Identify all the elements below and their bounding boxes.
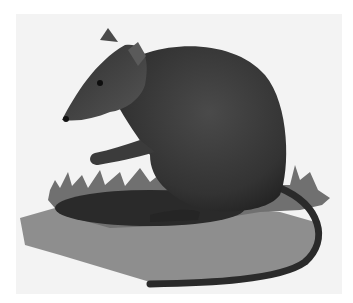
rodent-illustration bbox=[0, 0, 353, 303]
eye bbox=[97, 80, 103, 86]
ear-back bbox=[100, 28, 118, 42]
nose bbox=[63, 116, 69, 122]
